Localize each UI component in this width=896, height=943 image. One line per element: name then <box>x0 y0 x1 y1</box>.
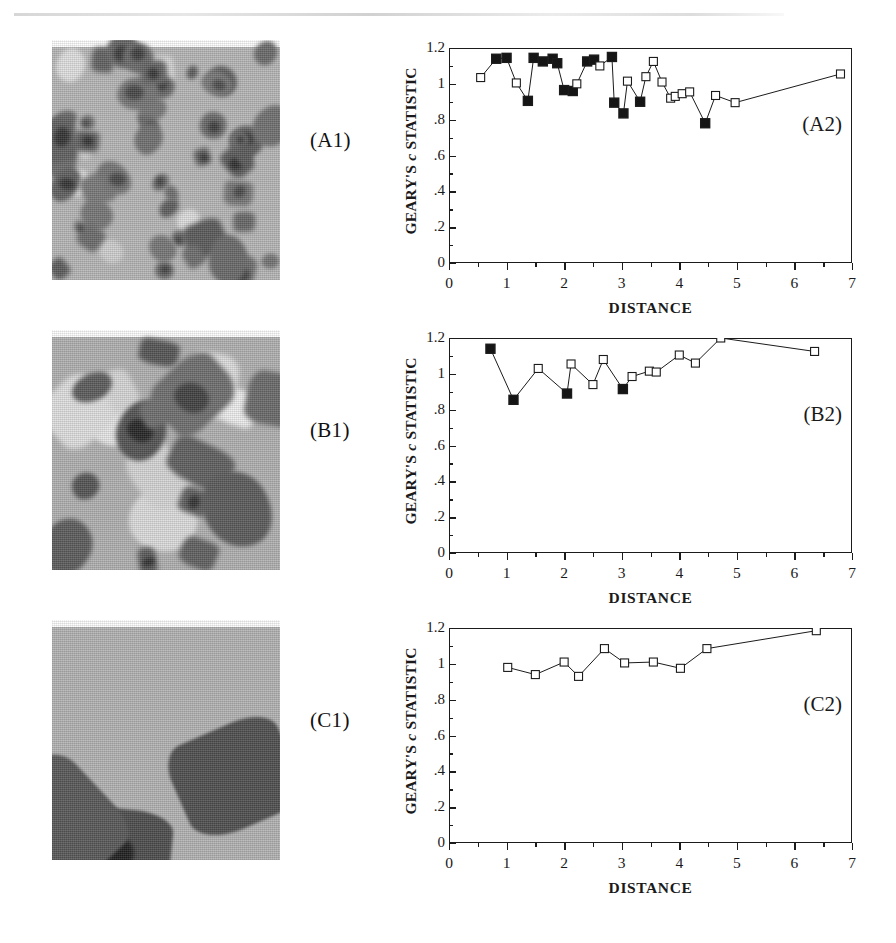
data-point-not-significant <box>534 364 542 372</box>
x-tick-mark-minor <box>535 553 536 557</box>
data-point-significant <box>553 59 562 68</box>
data-point-significant <box>523 96 532 105</box>
data-point-not-significant <box>512 79 520 87</box>
data-point-not-significant <box>600 645 608 653</box>
x-tick-mark <box>737 553 738 560</box>
x-tick-label: 3 <box>607 854 637 872</box>
data-point-not-significant <box>836 70 844 78</box>
x-tick-mark <box>449 553 450 560</box>
x-tick-mark <box>852 843 853 850</box>
data-point-significant <box>529 53 538 62</box>
x-tick-mark-minor <box>593 843 594 847</box>
y-tick-label: .4 <box>405 473 445 488</box>
data-point-not-significant <box>567 360 575 368</box>
data-point-significant <box>619 109 628 118</box>
data-point-not-significant <box>596 62 604 70</box>
x-tick-mark <box>507 843 508 850</box>
data-point-significant <box>509 395 518 404</box>
x-tick-label: 2 <box>549 564 579 582</box>
raster-grain-texture <box>52 40 280 280</box>
y-tick-label: 1.2 <box>405 620 445 635</box>
data-point-not-significant <box>504 663 512 671</box>
x-tick-mark-minor <box>535 263 536 267</box>
data-point-not-significant <box>575 672 583 680</box>
x-tick-mark-minor <box>535 843 536 847</box>
x-tick-mark <box>794 263 795 270</box>
x-tick-mark <box>564 553 565 560</box>
data-point-not-significant <box>589 381 597 389</box>
x-tick-mark-minor <box>478 553 479 557</box>
y-tick-label: .8 <box>405 402 445 417</box>
y-tick-label: .2 <box>405 219 445 234</box>
x-tick-mark <box>564 843 565 850</box>
x-tick-mark <box>679 263 680 270</box>
x-tick-label: 3 <box>607 564 637 582</box>
data-point-not-significant <box>731 99 739 107</box>
panel-tag-a1: (A1) <box>310 128 351 153</box>
x-tick-mark <box>852 553 853 560</box>
x-tick-label: 1 <box>492 564 522 582</box>
raster-image-a1 <box>52 40 280 280</box>
y-tick-label: .8 <box>405 112 445 127</box>
data-point-not-significant <box>573 80 581 88</box>
x-tick-mark-minor <box>708 553 709 557</box>
panel-tag-b1: (B1) <box>310 418 350 443</box>
data-point-significant <box>701 119 710 128</box>
x-tick-mark-minor <box>478 263 479 267</box>
data-point-not-significant <box>658 78 666 86</box>
x-tick-mark-minor <box>823 263 824 267</box>
panel-tag-c1: (C1) <box>310 708 350 733</box>
data-point-not-significant <box>717 338 725 342</box>
data-point-not-significant <box>675 351 683 359</box>
data-point-significant <box>486 344 495 353</box>
x-tick-mark-minor <box>823 553 824 557</box>
x-tick-label: 6 <box>779 854 809 872</box>
y-tick-label: .6 <box>405 438 445 453</box>
raster-grain-texture <box>52 620 280 860</box>
data-point-significant <box>560 86 569 95</box>
x-tick-mark <box>679 843 680 850</box>
x-tick-mark-minor <box>478 843 479 847</box>
x-tick-label: 4 <box>664 564 694 582</box>
x-tick-mark-minor <box>593 263 594 267</box>
series-correlogram <box>449 628 852 843</box>
x-tick-mark <box>622 843 623 850</box>
y-tick-label: .6 <box>405 148 445 163</box>
x-tick-label: 0 <box>434 854 464 872</box>
y-tick-label: .4 <box>405 183 445 198</box>
y-tick-label: .2 <box>405 509 445 524</box>
x-tick-label: 4 <box>664 274 694 292</box>
y-tick-label: 0 <box>405 545 445 560</box>
y-tick-label: 1 <box>405 656 445 671</box>
data-point-significant <box>563 389 572 398</box>
x-tick-label: 3 <box>607 274 637 292</box>
data-point-not-significant <box>691 359 699 367</box>
x-tick-label: 0 <box>434 274 464 292</box>
y-tick-label: 1.2 <box>405 40 445 55</box>
x-tick-mark-minor <box>823 843 824 847</box>
x-tick-mark <box>737 843 738 850</box>
series-correlogram <box>449 48 852 263</box>
data-point-significant <box>492 54 501 63</box>
x-tick-mark-minor <box>651 553 652 557</box>
figure-row-c: (C1) GEARY'S c STATISTIC (C2) DISTANCE 0… <box>0 604 896 904</box>
x-tick-mark-minor <box>708 263 709 267</box>
x-tick-mark <box>852 263 853 270</box>
data-point-not-significant <box>628 373 636 381</box>
y-tick-label: .8 <box>405 692 445 707</box>
raster-grain-texture <box>52 330 280 570</box>
raster-image-c1 <box>52 620 280 860</box>
y-tick-label: .2 <box>405 799 445 814</box>
x-tick-label: 2 <box>549 854 579 872</box>
x-tick-mark <box>507 553 508 560</box>
x-tick-mark <box>794 553 795 560</box>
data-point-not-significant <box>599 356 607 364</box>
x-tick-mark <box>622 263 623 270</box>
x-tick-mark <box>507 263 508 270</box>
chart-panel-c2: GEARY'S c STATISTIC (C2) DISTANCE 0.2.4.… <box>370 604 870 904</box>
y-tick-label: 1.2 <box>405 330 445 345</box>
y-tick-label: 0 <box>405 835 445 850</box>
x-tick-mark <box>449 263 450 270</box>
x-tick-label: 2 <box>549 274 579 292</box>
data-point-not-significant <box>652 368 660 376</box>
